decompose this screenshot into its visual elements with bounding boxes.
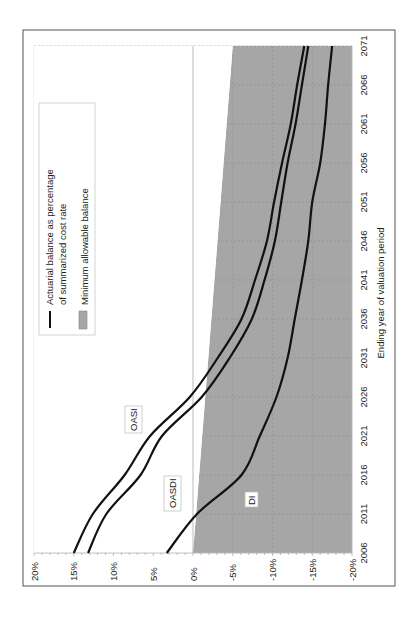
series-label-di-text: DI	[246, 496, 257, 506]
value-tick-label: -15%	[307, 558, 318, 581]
value-tick-label: -10%	[267, 558, 278, 581]
year-tick-label: 2021	[358, 425, 369, 446]
year-tick-label: 2031	[358, 347, 369, 368]
x-axis-title: Ending year of valuation period	[375, 228, 386, 359]
value-tick-label: 5%	[148, 567, 159, 581]
rotated-line-chart: 20%15%10%5%0%-5%-10%-15%-20% 20062011201…	[0, 0, 419, 619]
value-tick-label: 0%	[188, 567, 199, 581]
year-tick-label: 2066	[358, 74, 369, 95]
year-tick-label: 2026	[358, 386, 369, 407]
year-tick-label: 2036	[358, 308, 369, 329]
year-tick-label: 2056	[358, 152, 369, 173]
year-tick-label: 2071	[358, 35, 369, 56]
series-label-di: DI	[245, 492, 258, 507]
series-label-oasi-text: OASI	[128, 408, 139, 431]
legend-label-minimum: Minimum allowable balance	[79, 188, 90, 305]
value-tick-label: 20%	[29, 561, 40, 581]
series-label-oasi: OASI	[125, 406, 142, 433]
year-tick-label: 2016	[358, 464, 369, 485]
value-tick-label: -5%	[227, 564, 238, 581]
year-tick-label: 2046	[358, 230, 369, 251]
series-label-oasdi-text: OASDI	[167, 478, 178, 508]
legend-shade-swatch-icon	[79, 311, 87, 329]
value-tick-label: 15%	[68, 561, 79, 581]
year-tick-label: 2011	[358, 504, 369, 524]
year-tick-label: 2061	[358, 113, 369, 134]
year-tick-label: 2051	[358, 191, 369, 212]
year-tick-label: 2006	[358, 542, 369, 563]
legend-label-actuarial-line1: Actuarial balance as percentage	[44, 169, 55, 305]
legend-label-actuarial-line2: of summarized cost rate	[57, 204, 68, 305]
value-tick-label: 10%	[108, 561, 119, 581]
series-label-oasdi: OASDI	[164, 476, 181, 511]
legend: Actuarial balance as percentage of summa…	[39, 103, 95, 335]
year-tick-label: 2041	[358, 269, 369, 290]
value-tick-label: -20%	[347, 558, 358, 581]
